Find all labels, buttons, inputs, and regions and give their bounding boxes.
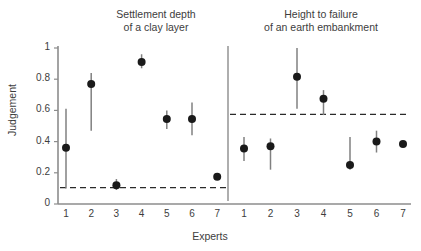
data-point	[399, 140, 407, 148]
data-point	[267, 142, 275, 150]
data-point	[293, 73, 301, 81]
data-point	[163, 115, 171, 123]
data-point	[112, 181, 120, 189]
plot-area	[0, 0, 421, 251]
data-point	[213, 173, 221, 181]
data-point	[373, 138, 381, 146]
data-point	[320, 95, 328, 103]
data-point	[138, 58, 146, 66]
chart-figure: Settlement depth of a clay layer Height …	[0, 0, 421, 251]
data-point	[62, 144, 70, 152]
data-point	[188, 115, 196, 123]
data-point	[240, 145, 248, 153]
data-point	[87, 80, 95, 88]
data-point	[346, 161, 354, 169]
